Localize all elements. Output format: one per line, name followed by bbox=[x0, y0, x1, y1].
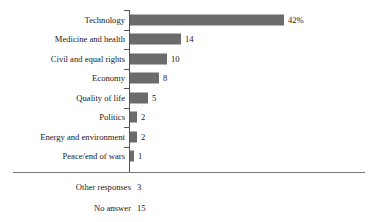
bar-civil-and-equal-rights bbox=[130, 53, 167, 64]
bar-chart: Technology 42% Medicine and health 14 Ci… bbox=[0, 0, 377, 222]
bar-row: Medicine and health 14 bbox=[0, 30, 377, 50]
bar-value-label: 8 bbox=[163, 73, 167, 83]
bar-category-label: Politics bbox=[99, 112, 125, 122]
bar-row: Economy 8 bbox=[0, 69, 377, 89]
bar-politics bbox=[130, 112, 137, 123]
bar-category-label: Peace/end of wars bbox=[62, 151, 125, 161]
axis-tick bbox=[124, 49, 129, 50]
axis-tick bbox=[124, 108, 129, 109]
bar-category-label: Medicine and health bbox=[55, 34, 125, 44]
footer-value: 15 bbox=[137, 203, 146, 213]
bar-peace-end-of-wars bbox=[130, 151, 134, 162]
bar-row: Civil and equal rights 10 bbox=[0, 49, 377, 69]
bar-value-label: 2 bbox=[141, 132, 145, 142]
footer-separator-line bbox=[13, 172, 365, 173]
bar-value-label: 5 bbox=[152, 93, 156, 103]
bar-energy-and-environment bbox=[130, 131, 137, 142]
bar-value-label: 10 bbox=[171, 54, 180, 64]
bar-row: Peace/end of wars 1 bbox=[0, 147, 377, 167]
axis-tick bbox=[124, 69, 129, 70]
bar-medicine-and-health bbox=[130, 34, 181, 45]
bar-category-label: Civil and equal rights bbox=[51, 54, 125, 64]
bar-value-label: 14 bbox=[185, 34, 194, 44]
bar-technology bbox=[130, 14, 284, 25]
bar-category-label: Quality of life bbox=[76, 93, 125, 103]
bar-quality-of-life bbox=[130, 92, 148, 103]
bar-value-label: 2 bbox=[141, 112, 145, 122]
bar-category-label: Technology bbox=[85, 15, 125, 25]
bar-row: Politics 2 bbox=[0, 108, 377, 128]
footer-row-other-responses: Other responses 3 bbox=[0, 176, 377, 198]
bar-economy bbox=[130, 73, 159, 84]
axis-tick bbox=[124, 88, 129, 89]
axis-tick bbox=[124, 10, 129, 11]
footer-row-no-answer: No answer 15 bbox=[0, 197, 377, 219]
axis-tick bbox=[124, 147, 129, 148]
bar-category-label: Energy and environment bbox=[40, 132, 125, 142]
footer-label: No answer bbox=[94, 203, 131, 213]
bar-row: Quality of life 5 bbox=[0, 88, 377, 108]
axis-tick bbox=[124, 30, 129, 31]
axis-tick bbox=[124, 127, 129, 128]
footer-value: 3 bbox=[137, 182, 141, 192]
bar-value-label: 42% bbox=[288, 15, 304, 25]
plot-area: Technology 42% Medicine and health 14 Ci… bbox=[0, 0, 377, 172]
bar-category-label: Economy bbox=[92, 73, 125, 83]
footer-label: Other responses bbox=[76, 182, 131, 192]
bar-row: Technology 42% bbox=[0, 10, 377, 30]
bar-row: Energy and environment 2 bbox=[0, 127, 377, 147]
bar-value-label: 1 bbox=[138, 151, 142, 161]
